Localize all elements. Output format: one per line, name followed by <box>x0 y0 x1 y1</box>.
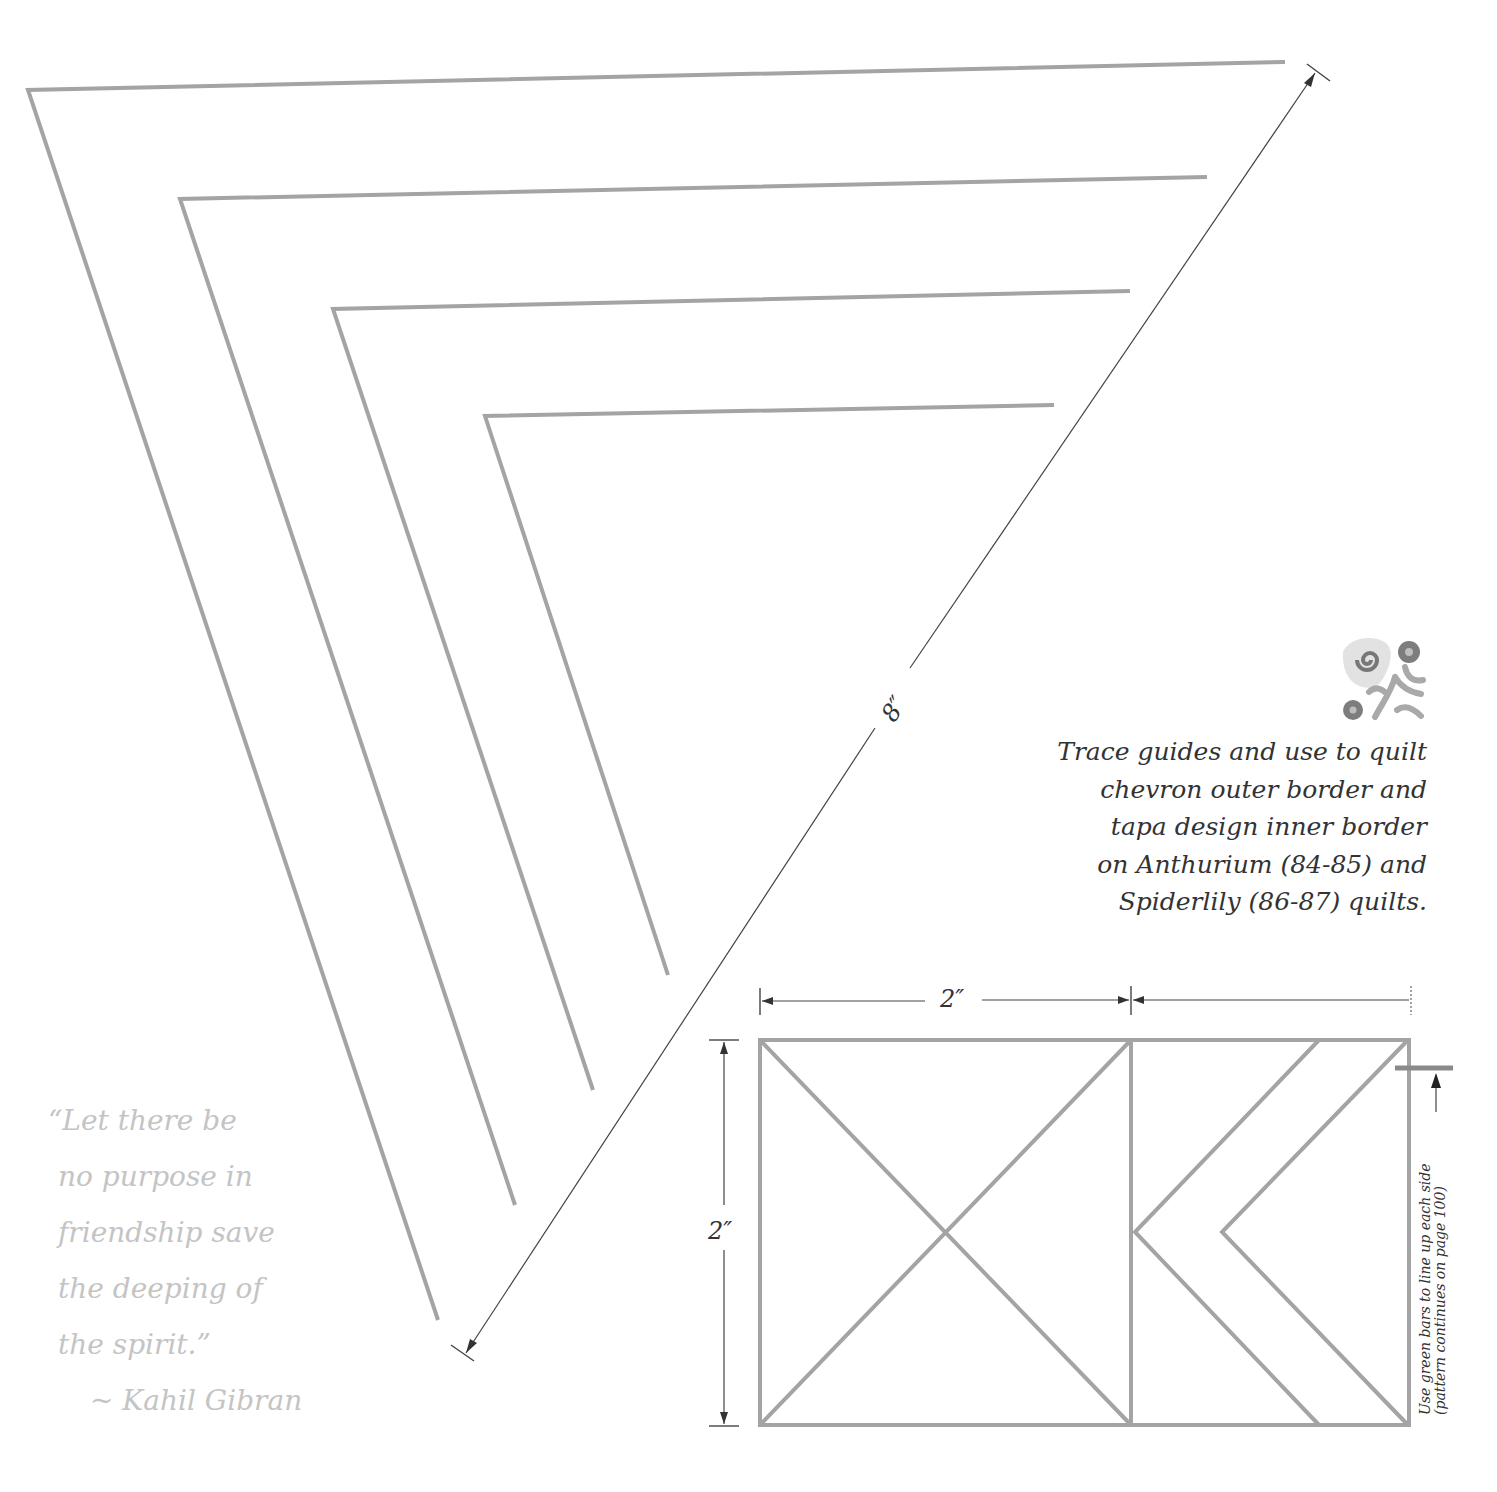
instructions-line: tapa design inner border <box>967 808 1427 846</box>
instructions-line: on Anthurium (84-85) and <box>967 846 1427 884</box>
alignment-note: Use green bars to line up each side (pat… <box>1418 1163 1448 1415</box>
quote-block: “Let there be no purpose in friendship s… <box>48 1093 302 1429</box>
quote-line: the deeping of <box>48 1261 302 1317</box>
instructions-line: Trace guides and use to quilt <box>967 733 1427 771</box>
instructions-line: Spiderlily (86-87) quilts. <box>967 883 1427 921</box>
quote-author: ~ Kahil Gibran <box>48 1373 302 1429</box>
quote-line: friendship save <box>48 1205 302 1261</box>
width-dimension-label: 2″ <box>934 985 970 1013</box>
height-dimension-label: 2″ <box>708 1213 732 1249</box>
quote-line: the spirit.” <box>48 1317 302 1373</box>
alignment-bar <box>1395 1068 1453 1112</box>
width-dimension-line <box>760 986 1411 1015</box>
alignment-note-line2: (pattern continues on page 100) <box>1433 1163 1448 1415</box>
instructions-line: chevron outer border and <box>967 771 1427 809</box>
x-square-block <box>760 1040 1131 1425</box>
tapa-flower-swirl-icon <box>1335 632 1430 727</box>
instructions-text: Trace guides and use to quilt chevron ou… <box>967 733 1427 921</box>
quote-line: “Let there be <box>48 1093 302 1149</box>
alignment-note-line1: Use green bars to line up each side <box>1418 1163 1433 1415</box>
quote-line: no purpose in <box>48 1149 302 1205</box>
chevron-block <box>1131 1040 1409 1425</box>
chevron-guide-2 <box>180 177 1207 1205</box>
